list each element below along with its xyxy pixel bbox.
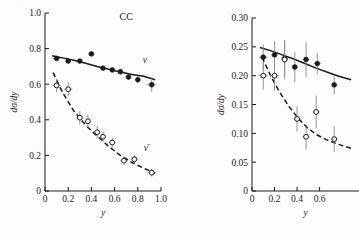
y-tick-label: 0.15: [231, 100, 248, 110]
y-tick-label: 0.6: [29, 80, 41, 90]
y-tick-label: 0.2: [29, 151, 41, 161]
panel-left-panel: 00.20.40.60.81.000.20.40.60.81.0ydσ/dyCC…: [9, 8, 167, 218]
y-axis-label: dσ/dy: [9, 91, 19, 113]
data-point-open: [110, 140, 115, 145]
y-tick-label: 0.10: [231, 129, 248, 139]
x-tick-label: 0: [43, 194, 48, 204]
data-point-filled: [272, 53, 277, 58]
x-tick-label: 1.0: [155, 194, 167, 204]
y-tick-label: 0.30: [231, 13, 248, 23]
data-point-open: [295, 117, 300, 122]
data-point-filled: [304, 57, 309, 62]
data-point-open: [95, 130, 100, 135]
x-tick-label: 0.8: [132, 194, 144, 204]
panel-right-panel: 00.050.100.150.200.250.3000.20.40.6ydσ/d…: [216, 13, 359, 218]
data-point-filled: [118, 69, 123, 74]
series-label-ν̄: ν̄: [144, 143, 151, 153]
data-point-filled: [54, 56, 59, 61]
x-tick-label: 0.4: [291, 194, 303, 204]
x-tick-label: 0.6: [109, 194, 121, 204]
y-tick-label: 0.20: [231, 71, 248, 81]
y-axis-label: dσ/dy: [216, 93, 226, 115]
x-tick-label: 0: [250, 194, 255, 204]
data-point-filled: [110, 68, 115, 73]
y-tick-label: 1.0: [29, 8, 41, 18]
x-axis-label: y: [100, 208, 106, 218]
x-tick-label: 0.2: [62, 194, 74, 204]
data-point-open: [86, 119, 91, 124]
figure-container: 00.20.40.60.81.000.20.40.60.81.0ydσ/dyCC…: [0, 0, 359, 233]
x-axis-label: y: [302, 208, 308, 218]
data-point-open: [149, 170, 154, 175]
data-point-filled: [292, 65, 297, 70]
plot-panels: 00.20.40.60.81.000.20.40.60.81.0ydσ/dyCC…: [0, 0, 359, 233]
data-point-filled: [135, 77, 140, 82]
y-tick-label: 0: [36, 186, 41, 196]
y-tick-label: 0.05: [231, 158, 248, 168]
y-tick-label: 0.8: [29, 44, 41, 54]
y-tick-label: 0.4: [29, 115, 41, 125]
data-point-filled: [66, 59, 71, 64]
data-point-open: [272, 73, 277, 78]
x-tick-label: 0.6: [314, 194, 326, 204]
data-point-open: [77, 115, 82, 120]
data-point-open: [132, 157, 137, 162]
data-point-open: [121, 158, 126, 163]
x-tick-label: 0.2: [269, 194, 281, 204]
data-point-open: [282, 57, 287, 62]
x-tick-label: 0.4: [85, 194, 97, 204]
data-point-open: [66, 87, 71, 92]
data-point-open: [261, 73, 266, 78]
axis-spines: [252, 18, 359, 191]
panel-title: CC: [120, 11, 134, 22]
data-point-open: [304, 134, 309, 139]
data-point-filled: [77, 59, 82, 64]
data-point-open: [101, 134, 106, 139]
data-point-filled: [101, 66, 106, 71]
y-tick-label: 0.25: [231, 42, 248, 52]
plot-canvas: 00.20.40.60.81.000.20.40.60.81.0ydσ/dyCC…: [0, 0, 359, 233]
data-point-filled: [89, 52, 94, 57]
axis-spines: [45, 13, 161, 191]
data-point-open: [314, 110, 319, 115]
series-label-ν: ν: [143, 55, 148, 65]
data-point-open: [332, 137, 337, 142]
y-tick-label: 0: [243, 186, 248, 196]
data-point-open: [54, 83, 59, 88]
data-point-filled: [149, 82, 154, 87]
data-point-filled: [332, 82, 337, 87]
data-point-filled: [126, 75, 131, 80]
data-point-filled: [315, 61, 320, 66]
